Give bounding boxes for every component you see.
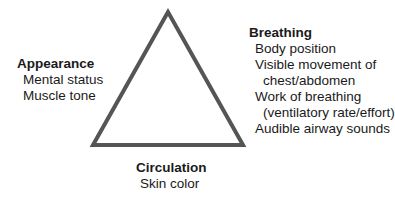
breathing-title: Breathing [249,25,395,41]
appearance-item: Muscle tone [17,88,103,104]
appearance-item: Mental status [17,72,103,88]
appearance-title: Appearance [17,56,103,72]
circulation-title: Circulation [136,160,207,176]
breathing-section: Breathing Body position Visible movement… [249,25,395,137]
breathing-item: chest/abdomen [249,73,395,89]
circulation-section: Circulation Skin color [136,160,207,192]
appearance-section: Appearance Mental status Muscle tone [17,56,103,104]
breathing-item: Body position [249,41,395,57]
breathing-item: (ventilatory rate/effort) [249,105,395,121]
circulation-item: Skin color [136,176,207,192]
breathing-item: Visible movement of [249,57,395,73]
breathing-item: Audible airway sounds [249,121,395,137]
breathing-item: Work of breathing [249,89,395,105]
